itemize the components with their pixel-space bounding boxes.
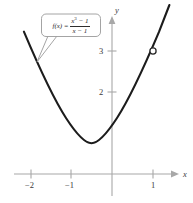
x-tick-label-minus1: −1: [65, 181, 74, 190]
y-axis-label: y: [115, 6, 119, 15]
x-tick-label-minus2: −2: [25, 181, 34, 190]
x-tick-label-1: 1: [151, 181, 155, 190]
y-axis-arrowhead: [109, 16, 116, 24]
x-axis-label: x: [183, 170, 187, 179]
x-axis-arrowhead: [171, 171, 179, 178]
y-tick-label-3: 3: [99, 47, 103, 56]
y-tick-label-2: 2: [99, 88, 103, 97]
open-circle-hole: [150, 48, 156, 54]
callout-tail: [37, 36, 57, 62]
callout-box: [42, 14, 101, 37]
plot-canvas: [0, 0, 193, 203]
function-graph-figure: f(x) = x3 − 1 x − 1 −2 −1 1 2 3 x y: [0, 0, 193, 203]
